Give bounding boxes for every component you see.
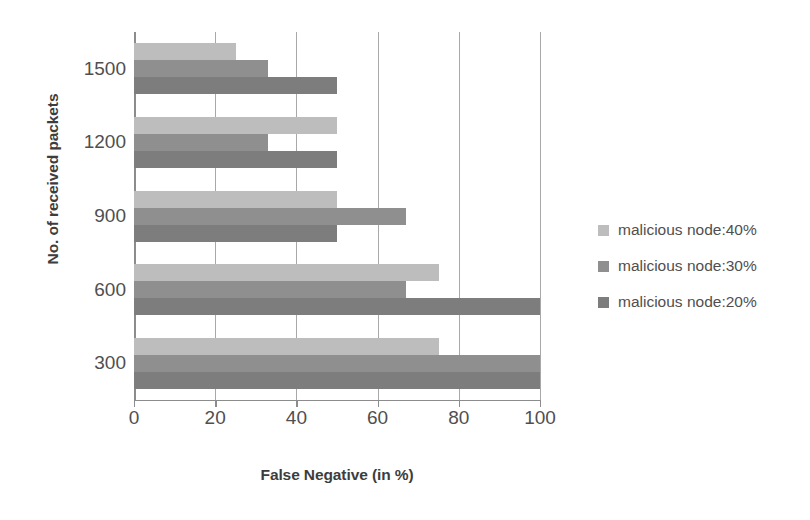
bar bbox=[134, 338, 439, 355]
bar bbox=[134, 77, 337, 94]
x-axis-tick-label: 100 bbox=[510, 407, 570, 429]
x-axis-tick-label: 20 bbox=[185, 407, 245, 429]
gridline bbox=[540, 32, 541, 400]
legend-item[interactable]: malicious node:40% bbox=[598, 212, 757, 248]
legend-item[interactable]: malicious node:20% bbox=[598, 284, 757, 320]
legend-swatch-icon bbox=[598, 261, 609, 272]
x-axis-tick-label: 0 bbox=[104, 407, 164, 429]
bar bbox=[134, 264, 439, 281]
y-axis-tick-label: 900 bbox=[58, 205, 126, 227]
plot-area bbox=[134, 32, 540, 400]
x-axis-title: False Negative (in %) bbox=[134, 466, 540, 484]
bar-group bbox=[134, 191, 540, 242]
x-axis-line bbox=[134, 400, 540, 401]
x-axis-tick-label: 80 bbox=[429, 407, 489, 429]
x-axis-tick bbox=[378, 400, 379, 407]
bar bbox=[134, 355, 540, 372]
x-axis-tick bbox=[540, 400, 541, 407]
bar bbox=[134, 134, 268, 151]
bar bbox=[134, 208, 406, 225]
legend-label: malicious node:30% bbox=[618, 257, 757, 275]
legend-swatch-icon bbox=[598, 225, 609, 236]
y-axis-tick-labels: 15001200900600300 bbox=[58, 32, 126, 400]
legend-item[interactable]: malicious node:30% bbox=[598, 248, 757, 284]
bar bbox=[134, 117, 337, 134]
x-axis-tick bbox=[296, 400, 297, 407]
bar bbox=[134, 372, 540, 389]
x-axis-tick-label: 40 bbox=[266, 407, 326, 429]
bar bbox=[134, 43, 236, 60]
bar-group bbox=[134, 117, 540, 168]
bar bbox=[134, 225, 337, 242]
legend-label: malicious node:20% bbox=[618, 293, 757, 311]
bar bbox=[134, 151, 337, 168]
x-axis-tick-labels: 020406080100 bbox=[134, 407, 540, 437]
chart-figure: No. of received packets 1500120090060030… bbox=[0, 0, 810, 520]
chart-legend: malicious node:40%malicious node:30%mali… bbox=[598, 212, 757, 320]
x-axis-tick bbox=[215, 400, 216, 407]
x-axis-tick bbox=[459, 400, 460, 407]
legend-label: malicious node:40% bbox=[618, 221, 757, 239]
bar-group bbox=[134, 338, 540, 389]
x-axis-tick bbox=[134, 400, 135, 407]
x-axis-tick-label: 60 bbox=[348, 407, 408, 429]
y-axis-tick-label: 1500 bbox=[58, 58, 126, 80]
y-axis-tick-label: 300 bbox=[58, 352, 126, 374]
y-axis-tick-label: 600 bbox=[58, 279, 126, 301]
y-axis-tick-label: 1200 bbox=[58, 131, 126, 153]
bar bbox=[134, 60, 268, 77]
bar bbox=[134, 298, 540, 315]
bar bbox=[134, 191, 337, 208]
bar-group bbox=[134, 264, 540, 315]
bar bbox=[134, 281, 406, 298]
bar-group bbox=[134, 43, 540, 94]
legend-swatch-icon bbox=[598, 297, 609, 308]
